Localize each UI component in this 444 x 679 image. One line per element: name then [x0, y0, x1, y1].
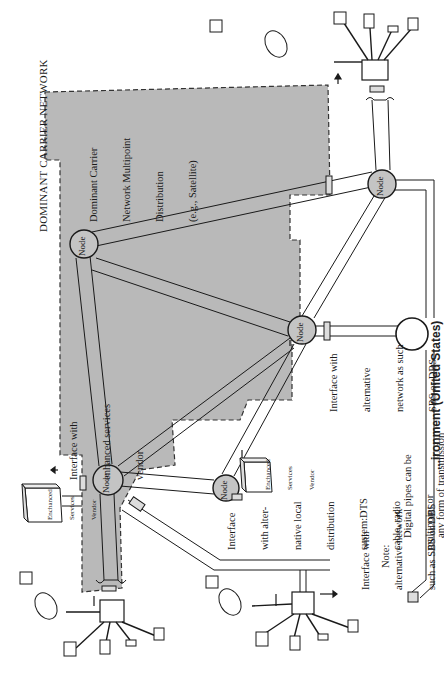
multipoint-label: Dominant Carrier Network Multipoint Dist… [66, 138, 209, 222]
node-label-center-right: Node [296, 323, 305, 343]
telephone-icon [100, 640, 110, 654]
node-label-top-right: Node [376, 177, 385, 197]
label-line: alternative [361, 344, 372, 412]
vendor-line: Services [69, 489, 76, 520]
vendor-line: Enchanced [47, 489, 54, 520]
satellite-dish-icon [260, 27, 291, 61]
video-icon [20, 572, 32, 584]
label-line: with alter- [259, 476, 270, 550]
camera-icon [126, 640, 136, 646]
alt-network-interface-center-label: Interface with alternative network as su… [306, 344, 444, 412]
vendor-box-left-label: Enchanced Services Vendor [32, 489, 105, 520]
satellite-dish-icon [214, 585, 245, 619]
multipoint-line: Dominant Carrier [88, 138, 99, 222]
camera-icon [388, 26, 398, 32]
enhanced-services-interface-label: Interface with enhanced services vendor [46, 404, 156, 480]
label-line: network as such [394, 344, 405, 412]
region-title: DOMINANT CARRIER NETWORK [38, 59, 50, 232]
label-line: distribution [325, 476, 336, 550]
telephone-icon [290, 636, 300, 650]
label-line: vendor [134, 404, 145, 480]
label-line: native local [292, 476, 303, 550]
pipe-flare-top [366, 98, 394, 101]
terminal-top [334, 20, 412, 80]
multipoint-line: Network Multipoint [121, 138, 132, 222]
multipoint-line: (e.g., Satellite) [187, 138, 198, 222]
computer-terminal-icon [64, 642, 76, 656]
video-icon [210, 20, 222, 32]
note-line: Digital pipes can be [402, 422, 413, 539]
vendor-line: Vendor [91, 489, 98, 520]
camera-icon [318, 634, 328, 640]
note-prefix: Note: [380, 545, 391, 568]
label-line: Interface [226, 476, 237, 550]
printer-icon [154, 628, 164, 640]
terminal-bottom-left [66, 600, 156, 648]
node-label-top-left: Node [78, 237, 87, 257]
printer-icon [408, 18, 418, 30]
label-line: Interface with [328, 344, 339, 412]
computer-terminal-icon [256, 632, 268, 646]
multipoint-line: Distribution [154, 138, 165, 222]
label-line: enhanced services [101, 404, 112, 480]
terminal-bottom-right [252, 592, 350, 638]
figure-caption: ...ironment (United States) [430, 321, 443, 470]
label-line: Interface with [360, 504, 371, 590]
computer-terminal-icon [334, 12, 346, 24]
telephone-icon [364, 14, 374, 28]
printer-icon [348, 620, 358, 632]
video-icon [206, 576, 218, 588]
satellite-dish-icon [30, 589, 61, 623]
label-line: Interface with [68, 404, 79, 480]
